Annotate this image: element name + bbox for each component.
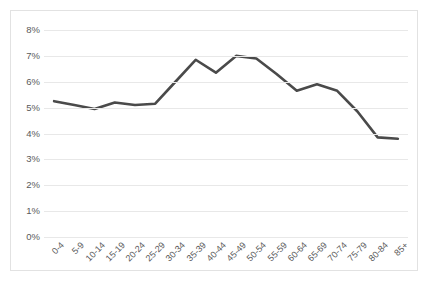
y-tick-label: 8% (10, 25, 40, 35)
y-tick-label: 7% (10, 51, 40, 61)
gridline (44, 185, 408, 186)
plot-area (44, 30, 408, 237)
y-axis: 0%1%2%3%4%5%6%7%8% (8, 30, 40, 237)
series-polyline (54, 56, 398, 139)
y-tick-label: 6% (10, 77, 40, 87)
gridline (44, 134, 408, 135)
y-tick-label: 1% (10, 206, 40, 216)
gridline (44, 82, 408, 83)
x-axis: 0-45-910-1415-1920-2425-2930-3435-3940-4… (44, 238, 408, 282)
y-tick-label: 2% (10, 180, 40, 190)
gridline (44, 30, 408, 31)
gridline (44, 211, 408, 212)
y-tick-label: 5% (10, 103, 40, 113)
y-tick-label: 3% (10, 154, 40, 164)
line-chart: 0%1%2%3%4%5%6%7%8% 0-45-910-1415-1920-24… (0, 0, 429, 284)
y-tick-label: 0% (10, 232, 40, 242)
gridline (44, 108, 408, 109)
gridline (44, 56, 408, 57)
y-tick-label: 4% (10, 129, 40, 139)
gridline (44, 159, 408, 160)
